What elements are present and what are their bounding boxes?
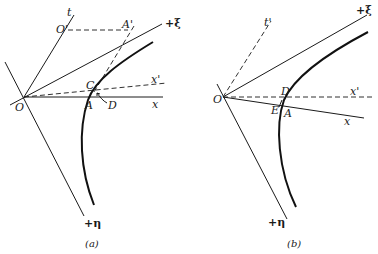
label-d: D [280, 85, 290, 98]
hyperbola-curve [82, 42, 153, 205]
label-xi: +ξ [165, 17, 181, 30]
label-t: t [67, 6, 72, 19]
label-x: x [152, 98, 159, 111]
label-a: A [283, 107, 292, 120]
label-d: D [107, 99, 117, 112]
panel-b: t' +ξ x' x O D E A +η (b) [213, 4, 373, 249]
caption-a: (a) [85, 238, 99, 249]
hyperbola-curve [279, 32, 368, 207]
minkowski-diagram-figure: t O' A' +ξ x' x O C A D +η (a) t' +ξ x' … [0, 0, 378, 254]
label-c: C [86, 79, 95, 92]
label-x-prime: x' [350, 85, 359, 98]
label-eta: +η [84, 217, 101, 230]
label-e: E [270, 104, 279, 117]
x-axis-line [223, 97, 364, 118]
t-prime-axis-line [223, 21, 271, 97]
label-xi: +ξ [356, 4, 372, 17]
label-o-prime: O' [56, 23, 68, 36]
label-o: O [213, 93, 222, 106]
label-x: x [344, 115, 351, 128]
label-eta: +η [268, 216, 285, 229]
label-a: A [84, 99, 93, 112]
xi-asymptote-line [10, 24, 162, 105]
label-a-prime: A' [121, 18, 133, 31]
d-pointer-arrow [97, 93, 107, 103]
eta-asymptote-line [5, 62, 84, 216]
label-o: O [15, 101, 24, 114]
panel-a: t O' A' +ξ x' x O C A D +η (a) [5, 6, 181, 249]
label-t-prime: t' [264, 16, 271, 29]
label-x-prime: x' [151, 73, 160, 86]
caption-b: (b) [287, 238, 301, 249]
